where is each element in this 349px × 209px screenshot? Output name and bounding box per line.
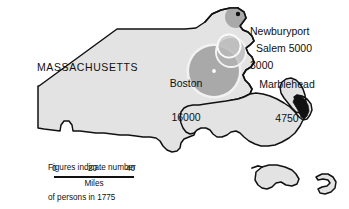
nantucket (316, 174, 336, 194)
city-label-newburyport-name: Newburyport (250, 26, 310, 37)
scale-bar-line (54, 176, 134, 178)
scale-unit-label: Miles (52, 179, 136, 188)
city-label-boston-name: Boston (162, 78, 210, 89)
scale-tick-0: 0 (52, 164, 57, 173)
city-label-marblehead: Marblehead 4750 (256, 56, 318, 147)
city-label-boston: Boston 16000 (162, 55, 210, 146)
scale-tick-20: 20 (88, 164, 97, 173)
symbol-marblehead (218, 35, 241, 58)
scale-tick-40: 40 (126, 164, 135, 173)
scale-bar: 0 20 40 Miles (52, 164, 138, 194)
region-label-massachusetts: MASSACHUSETTS (37, 62, 138, 73)
massachusetts-population-map: MASSACHUSETTS Boston 16000 Newburyport 3… (0, 0, 349, 209)
symbol-newburyport (225, 6, 247, 28)
city-label-marblehead-name: Marblehead (256, 79, 318, 90)
marker-boston (212, 69, 216, 73)
city-label-salem: Salem 5000 (256, 43, 312, 54)
city-label-boston-value: 16000 (162, 112, 210, 123)
legend-note-line2: of persons in 1775 (48, 193, 136, 203)
marker-newburyport (236, 12, 240, 16)
marthas-vineyard (252, 165, 299, 189)
city-label-marblehead-value: 4750 (256, 113, 318, 124)
